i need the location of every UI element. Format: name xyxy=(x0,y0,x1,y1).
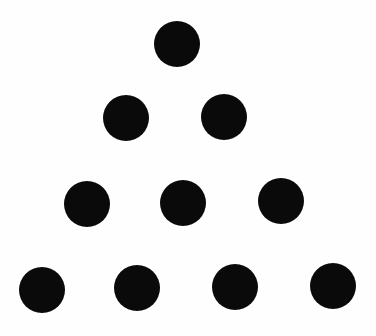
dot-row-4-8 xyxy=(212,264,258,310)
dot-row-3-3 xyxy=(64,181,110,227)
dot-row-4-6 xyxy=(19,267,65,313)
dot-row-2-1 xyxy=(103,95,149,141)
dot-row-4-7 xyxy=(114,265,160,311)
dot-triangle-diagram xyxy=(0,0,376,336)
dot-row-3-5 xyxy=(258,178,304,224)
dot-triangle-svg xyxy=(0,0,376,336)
dot-row-2-2 xyxy=(201,94,247,140)
dot-row-3-4 xyxy=(160,180,206,226)
dot-row-4-9 xyxy=(310,263,356,309)
dot-row-1-0 xyxy=(154,21,200,67)
